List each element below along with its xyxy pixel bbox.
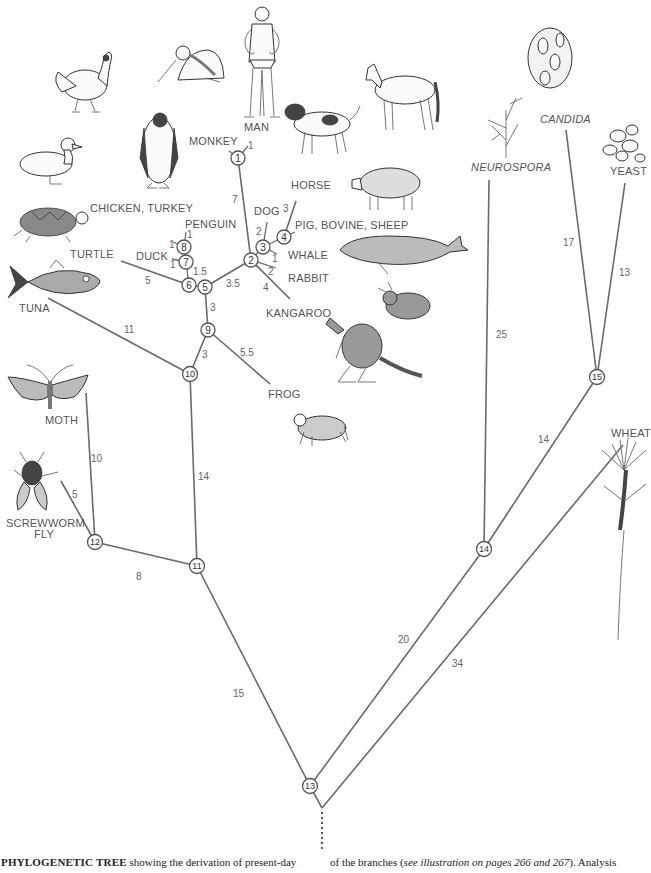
branch-tuna [48,298,190,374]
node-13: 13 [303,779,318,794]
phylogenetic-tree: 1 2 3 4 5 6 7 8 9 10 11 12 13 14 15 MAN … [0,0,651,873]
branch-14-15 [484,377,597,549]
candida-icon [528,28,572,88]
figure-caption-left: PHYLOGENETIC TREE showing the derivation… [1,856,296,868]
man-icon [244,7,280,117]
figure-caption-right: of the branches (see illustration on pag… [330,856,616,868]
node-1: 1 [231,151,245,165]
tuna-icon [8,260,100,298]
node-3: 3 [256,240,270,254]
svg-text:4: 4 [281,232,287,243]
blen-kangaroo-2: 4 [263,282,269,293]
blen-moth-12: 10 [91,453,103,464]
branch-wheat [322,445,623,808]
label-frog: FROG [268,388,301,400]
blen-5-9: 3 [210,302,216,313]
svg-text:3: 3 [260,242,266,253]
blen-wheat-root: 34 [452,658,464,669]
label-whale: WHALE [288,249,328,261]
blen-9-10: 3 [202,349,208,360]
node-6: 6 [182,278,196,292]
node-14: 14 [477,542,492,557]
blen-fly-12: 5 [72,489,78,500]
label-penguin: PENGUIN [185,218,237,230]
chicken-icon [56,52,112,112]
label-yeast: YEAST [610,165,647,177]
wheat-icon [602,438,646,640]
blen-tuna-10: 11 [124,324,135,335]
blen-candida-15: 17 [563,237,575,248]
blen-13-14: 20 [398,634,410,645]
dog-icon [285,104,360,154]
screwworm-fly-icon [14,452,58,510]
moth-icon [8,365,88,409]
blen-10-11: 14 [198,471,210,482]
branch-yeast [597,183,625,377]
label-rabbit: RABBIT [288,272,329,284]
rabbit-icon [378,282,430,319]
svg-text:12: 12 [90,537,100,547]
label-moth: MOTH [45,414,78,426]
label-horse: HORSE [291,179,331,191]
blen-12-11: 8 [136,571,142,582]
node-11: 11 [190,559,205,574]
blen-yeast-15: 13 [619,267,631,278]
branch-12-11 [95,542,197,566]
neurospora-icon [488,98,522,158]
label-turtle: TURTLE [70,248,114,260]
label-candida: CANDIDA [540,113,591,125]
blen-5-2: 3.5 [226,278,240,289]
caption-right-italic: see illustration on pages 266 and 267 [404,856,570,868]
svg-text:7: 7 [183,257,189,268]
branch-1-2 [238,158,251,260]
caption-right-post: ). Analysis [569,856,616,868]
blen-duck-7: 1 [170,259,176,270]
node-8: 8 [177,240,191,254]
label-duck: DUCK [136,250,168,262]
caption-right-pre: of the branches ( [330,856,404,868]
blen-rabbit-2: 2 [268,266,274,277]
node-15: 15 [590,370,605,385]
blen-turtle-6: 5 [145,275,151,286]
node-7: 7 [179,255,193,269]
branch-11-13 [197,566,310,786]
penguin-icon [140,113,178,188]
blen-horse-4: 3 [283,203,289,214]
pig-icon [352,168,420,210]
svg-text:11: 11 [192,561,201,571]
svg-text:15: 15 [592,372,602,382]
blen-1-2: 7 [232,194,238,205]
frog-icon [294,414,348,446]
label-fly: FLY [34,528,54,540]
branch-fly [61,481,95,542]
svg-text:9: 9 [205,325,211,336]
node-9: 9 [201,323,215,337]
label-chicken: CHICKEN, TURKEY [90,202,193,214]
blen-14-15: 14 [538,434,550,445]
branch-turtle [121,261,189,285]
blen-penguin-8: 1 [187,229,193,240]
label-wheat: WHEAT [611,427,651,439]
svg-text:8: 8 [181,242,187,253]
monkey-icon [158,46,224,82]
svg-text:6: 6 [186,280,192,291]
label-dog: DOG [254,205,280,217]
node-2: 2 [244,253,258,267]
blen-neurospora-14: 25 [496,329,508,340]
label-pig: PIG, BOVINE, SHEEP [295,219,409,231]
svg-text:5: 5 [202,282,208,293]
svg-text:1: 1 [235,153,241,164]
branch-moth [86,393,95,542]
label-kangaroo: KANGAROO [266,307,331,319]
blen-chicken-8: 1 [169,239,175,250]
node-5: 5 [198,280,212,294]
svg-text:10: 10 [185,369,195,379]
branch-candida [566,130,597,377]
caption-left-text: showing the derivation of present-day [127,856,297,868]
label-tuna: TUNA [19,302,50,314]
blen-man-1: 1 [248,140,254,151]
horse-icon [366,64,438,130]
label-neurospora: NEUROSPORA [471,161,551,173]
caption-title: PHYLOGENETIC TREE [1,856,127,868]
branch-10-11 [190,374,197,566]
